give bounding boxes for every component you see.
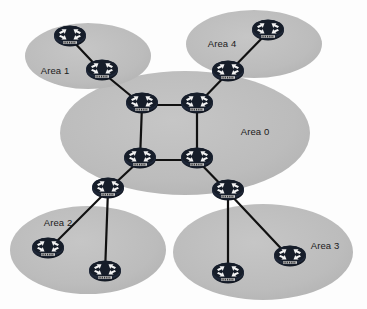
- router-backbone-top-right-icon[interactable]: ROUTER: [180, 92, 214, 118]
- router-area3-internal-2-icon[interactable]: ROUTER: [273, 245, 307, 271]
- router-backbone-bottom-right-icon[interactable]: ROUTER: [180, 147, 214, 173]
- router-area1-internal-icon[interactable]: ROUTER: [53, 25, 87, 51]
- ospf-topology-diagram: Area 0Area 1Area 4Area 2Area 3 ROUTERROU…: [0, 0, 367, 309]
- router-area3-internal-1-icon[interactable]: ROUTER: [211, 262, 245, 288]
- router-area2-internal-1-icon[interactable]: ROUTER: [31, 237, 65, 263]
- router-area3-abr-icon[interactable]: ROUTER: [211, 179, 245, 205]
- router-backbone-top-left-icon[interactable]: ROUTER: [125, 92, 159, 118]
- router-area1-abr-icon[interactable]: ROUTER: [85, 59, 119, 85]
- router-area4-abr-icon[interactable]: ROUTER: [211, 60, 245, 86]
- router-area4-internal-icon[interactable]: ROUTER: [251, 19, 285, 45]
- router-area2-abr-icon[interactable]: ROUTER: [91, 177, 125, 203]
- router-area2-internal-2-icon[interactable]: ROUTER: [88, 260, 122, 286]
- router-backbone-bottom-left-icon[interactable]: ROUTER: [123, 147, 157, 173]
- area-ellipse-area3: [173, 204, 353, 300]
